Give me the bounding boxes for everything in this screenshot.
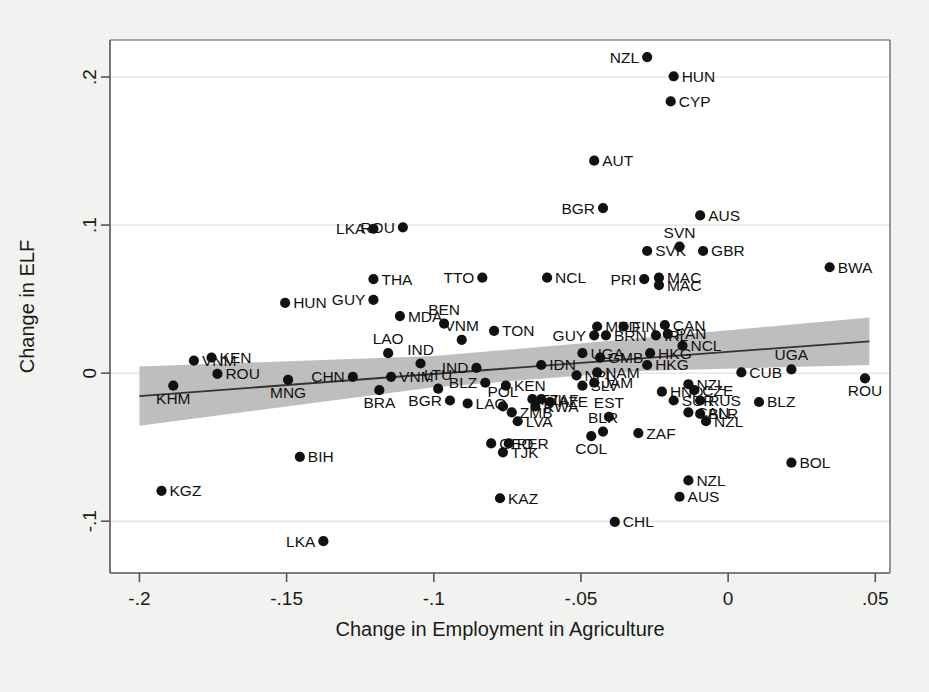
point-label: SLV — [590, 377, 619, 394]
point-label: AZE — [558, 393, 588, 410]
point-marker — [536, 360, 546, 370]
point-label: TJK — [511, 444, 539, 461]
point-label: GUY — [553, 327, 587, 344]
point-label: SVN — [664, 224, 696, 241]
point-marker — [486, 438, 496, 448]
point-marker — [395, 311, 405, 321]
x-axis-title: Change in Employment in Agriculture — [335, 618, 664, 640]
point-label: LKA — [336, 220, 366, 237]
point-marker — [545, 397, 555, 407]
point-marker — [507, 407, 517, 417]
point-marker — [598, 203, 608, 213]
point-label: GBR — [711, 242, 745, 259]
point-label: CHL — [623, 513, 654, 530]
point-marker — [156, 486, 166, 496]
point-marker — [639, 274, 649, 284]
point-label: MNG — [270, 384, 306, 401]
point-label: CUB — [749, 364, 782, 381]
point-marker — [698, 246, 708, 256]
point-marker — [368, 295, 378, 305]
point-label: TON — [502, 322, 534, 339]
point-marker — [530, 401, 540, 411]
point-marker — [477, 273, 487, 283]
y-tick-label: -.1 — [79, 510, 100, 532]
point-marker — [206, 352, 216, 362]
point-label: NZL — [696, 472, 726, 489]
point-marker — [463, 398, 473, 408]
point-marker — [592, 321, 602, 331]
point-label: IND — [407, 341, 434, 358]
point-marker — [495, 493, 505, 503]
y-axis-title: Change in ELF — [16, 240, 38, 373]
point-label: UGA — [590, 345, 624, 362]
point-marker — [754, 397, 764, 407]
x-tick-label: .05 — [862, 588, 888, 609]
y-tick-label: .2 — [79, 69, 100, 85]
point-marker — [642, 52, 652, 62]
point-label: THA — [381, 271, 413, 288]
point-marker — [498, 447, 508, 457]
point-marker — [212, 369, 222, 379]
point-label: BLZ — [767, 393, 795, 410]
point-label: ROU — [848, 382, 882, 399]
point-label: BGR — [408, 392, 442, 409]
point-marker — [825, 262, 835, 272]
point-label: AUT — [602, 152, 634, 169]
point-label: LKA — [286, 533, 316, 550]
x-tick-label: -.15 — [270, 588, 303, 609]
plot-area-background — [110, 40, 890, 573]
figure-canvas: KGZVNMKENROUKHMBIHLKAMNGHUNTHAGUYMDALAOC… — [0, 0, 929, 692]
point-marker — [189, 355, 199, 365]
point-marker — [598, 427, 608, 437]
point-marker — [368, 274, 378, 284]
point-marker — [786, 458, 796, 468]
point-marker — [348, 372, 358, 382]
point-marker — [674, 241, 684, 251]
point-marker — [318, 536, 328, 546]
point-label: NCL — [690, 337, 721, 354]
point-marker — [295, 452, 305, 462]
point-marker — [666, 96, 676, 106]
scatter-plot: KGZVNMKENROUKHMBIHLKAMNGHUNTHAGUYMDALAOC… — [0, 0, 929, 692]
y-tick-label: 0 — [79, 368, 100, 379]
point-label: MAC — [667, 277, 701, 294]
point-marker — [669, 71, 679, 81]
x-tick-label: -.1 — [423, 588, 445, 609]
point-label: BOL — [799, 454, 830, 471]
point-marker — [786, 364, 796, 374]
point-marker — [457, 335, 467, 345]
point-marker — [542, 273, 552, 283]
point-marker — [645, 348, 655, 358]
point-marker — [701, 416, 711, 426]
point-label: ZAF — [646, 425, 675, 442]
point-label: BEN — [428, 301, 460, 318]
point-label: BWA — [838, 259, 873, 276]
point-label: AUS — [688, 488, 720, 505]
point-label: VNM — [445, 317, 479, 334]
point-label: UGA — [775, 346, 809, 363]
point-label: KHM — [156, 390, 190, 407]
point-marker — [669, 395, 679, 405]
point-label: BGR — [561, 200, 595, 217]
y-tick-label: .1 — [79, 217, 100, 233]
point-label: NZL — [610, 49, 640, 66]
point-label: ROU — [225, 365, 259, 382]
point-label: POL — [487, 383, 518, 400]
point-label: LAO — [373, 330, 404, 347]
point-marker — [368, 224, 378, 234]
point-marker — [498, 401, 508, 411]
point-marker — [642, 246, 652, 256]
point-label: LVA — [526, 413, 554, 430]
point-label: CYP — [679, 93, 711, 110]
x-tick-label: 0 — [723, 588, 734, 609]
point-marker — [642, 360, 652, 370]
point-label: HUN — [293, 294, 327, 311]
point-label: KAZ — [508, 490, 538, 507]
point-marker — [386, 372, 396, 382]
point-marker — [619, 321, 629, 331]
point-marker — [683, 407, 693, 417]
x-tick-label: -.05 — [565, 588, 598, 609]
point-marker — [577, 381, 587, 391]
point-marker — [577, 348, 587, 358]
point-label: BIH — [308, 448, 334, 465]
